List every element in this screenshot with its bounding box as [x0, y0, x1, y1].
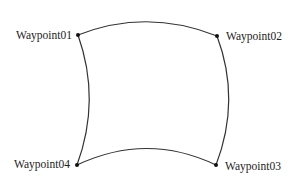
- waypoint-marker-03[interactable]: [214, 163, 218, 167]
- waypoint-marker-04[interactable]: [75, 163, 79, 167]
- edge-waypoint03-waypoint04: [77, 149, 216, 166]
- edge-waypoint01-waypoint02: [78, 22, 217, 36]
- waypoint-marker-02[interactable]: [215, 34, 219, 38]
- waypoint-marker-01[interactable]: [76, 33, 80, 37]
- waypoint-label-03: Waypoint03: [225, 160, 281, 173]
- waypoint-label-04: Waypoint04: [14, 158, 70, 171]
- waypoint-label-01: Waypoint01: [16, 29, 72, 42]
- edge-waypoint04-waypoint01: [77, 35, 89, 165]
- waypoint-diagram: Waypoint01 Waypoint02 Waypoint03 Waypoin…: [0, 0, 295, 183]
- waypoint-label-02: Waypoint02: [226, 30, 282, 43]
- edge-waypoint02-waypoint03: [216, 36, 229, 165]
